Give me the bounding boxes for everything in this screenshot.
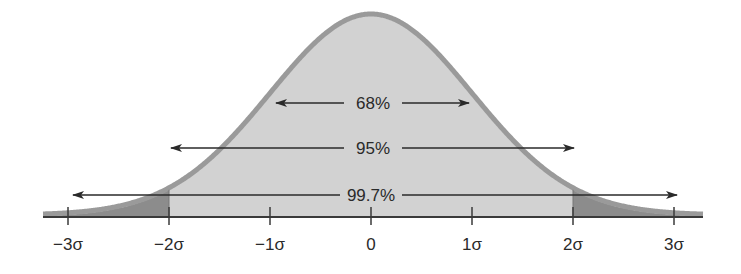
tick-label: −2σ: [154, 235, 184, 254]
tick-label: −1σ: [255, 235, 285, 254]
tick-label: −3σ: [53, 235, 83, 254]
tick-label: 2σ: [563, 235, 583, 254]
label-95: 95%: [356, 139, 390, 158]
normal-distribution-diagram: −3σ−2σ−1σ01σ2σ3σ 68% 95% 99.7%: [0, 0, 741, 274]
tick-label: 0: [366, 235, 375, 254]
label-99-7: 99.7%: [347, 186, 395, 205]
tick-label: 1σ: [462, 235, 482, 254]
tick-label: 3σ: [664, 235, 684, 254]
label-68: 68%: [356, 94, 390, 113]
